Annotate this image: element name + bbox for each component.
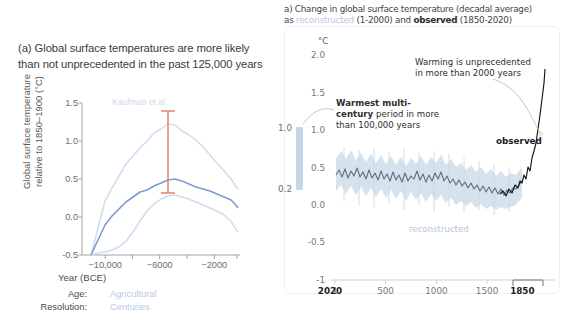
left-chart-svg <box>82 103 240 255</box>
metadata-value-resolution: Centuries <box>110 301 150 314</box>
left-x-axis-label: Year (BCE) <box>58 272 106 283</box>
annotation-warming-unprecedented: Warming is unprecedented in more than 20… <box>415 57 535 79</box>
warmest-period-bottom-label: 0.2 <box>278 184 292 194</box>
left-ytick-4: 0.0 <box>65 212 78 222</box>
metadata-row-resolution: Resolution: Centuries <box>0 301 272 314</box>
series-label-reconstructed: reconstructed <box>409 224 469 234</box>
right-plot-area: 2.0 1.5 1.0 0.5 0.0 -0.5 -1 1 500 1000 1… <box>330 55 555 280</box>
series-label-observed: observed <box>496 136 542 146</box>
right-ytick-4: 0.5 <box>311 163 325 173</box>
right-ytick-7: -1 <box>316 275 325 285</box>
right-ytick-5: 0.0 <box>311 200 325 210</box>
right-ytick-3: 1.0 <box>311 125 325 135</box>
warmest-period-top-label: 1.0 <box>278 123 292 133</box>
left-xtick-2: −6000 <box>147 260 173 270</box>
metadata-value-age: Agricultural <box>110 288 157 301</box>
metadata-row-age: Age: Agricultural <box>0 288 272 301</box>
left-xtick-3: −2000 <box>201 260 227 270</box>
left-y-axis-label: Global surface temperature relative to 1… <box>21 67 44 197</box>
right-unit-label: °C <box>318 36 328 46</box>
right-chart-svg <box>330 55 555 280</box>
right-ytick-1: 2.0 <box>311 50 325 60</box>
left-ytick-1: 1.5 <box>65 98 78 108</box>
metadata-key-age: Age: <box>68 288 87 301</box>
right-xtick-2: 500 <box>377 286 394 296</box>
left-ytick-5: -0.5 <box>62 250 78 260</box>
right-xtick-5: 1850 <box>510 286 534 296</box>
right-title-line1: a) Change in global surface temperature … <box>284 4 532 14</box>
right-ytick-2: 1.5 <box>311 88 325 98</box>
right-title-mid: (1-2000) and <box>354 15 413 25</box>
left-panel: (a) Global surface temperatures are more… <box>0 0 272 318</box>
annotation-warmest-period: Warmest multi-century period in more tha… <box>336 98 440 131</box>
right-title-tail: (1850-2020) <box>457 15 512 25</box>
right-title-lead: as <box>284 15 296 25</box>
right-ytick-6: -0.5 <box>308 237 325 247</box>
right-xtick-3: 1000 <box>425 286 447 296</box>
right-title-reconstructed: reconstructed <box>296 15 354 25</box>
left-xtick-1: −10,000 <box>88 260 121 270</box>
right-xtick-4: 1500 <box>476 286 498 296</box>
right-panel-title: a) Change in global surface temperature … <box>284 4 572 27</box>
left-panel-title: (a) Global surface temperatures are more… <box>18 41 266 72</box>
metadata-rows: Age: Agricultural Resolution: Centuries <box>0 288 272 313</box>
left-ytick-2: 1.0 <box>65 136 78 146</box>
left-ytick-3: 0.5 <box>65 174 78 184</box>
metadata-key-resolution: Resolution: <box>40 301 87 314</box>
right-title-observed: observed <box>413 15 457 25</box>
warmest-period-bar <box>296 127 303 190</box>
right-xtick-6: 2020 <box>318 286 342 296</box>
left-plot-area: 1.5 1.0 0.5 0.0 -0.5 −10,000 −6000 −2000 <box>82 103 240 255</box>
